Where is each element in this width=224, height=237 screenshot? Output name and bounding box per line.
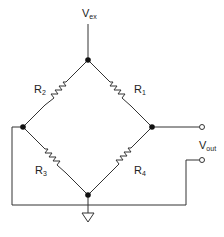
r4-label: R4 [134, 165, 146, 177]
r1-label: R1 [134, 84, 146, 96]
node-left [20, 124, 26, 130]
vex-label: Vex [82, 8, 97, 20]
ground-icon [82, 213, 94, 222]
node-right [149, 124, 155, 130]
bridge-circuit [0, 0, 224, 237]
vout-label: Vout [199, 140, 216, 152]
r3-label: R3 [35, 165, 47, 177]
resistor-r4 [88, 127, 152, 195]
resistor-r2 [23, 60, 88, 127]
resistor-r3 [23, 127, 88, 195]
vout-minus-terminal [200, 158, 205, 163]
node-bottom [85, 192, 91, 198]
r2-label: R2 [34, 84, 46, 96]
node-top [85, 57, 91, 63]
vout-plus-terminal [200, 125, 205, 130]
